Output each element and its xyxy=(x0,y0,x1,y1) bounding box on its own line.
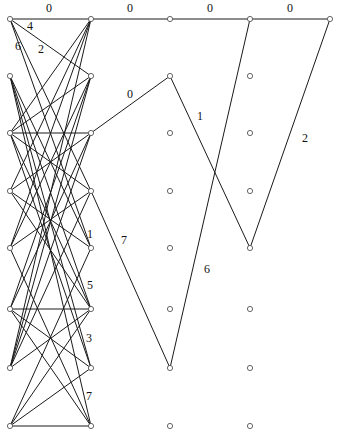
node-L1 xyxy=(7,73,12,78)
node-R0 xyxy=(88,16,93,21)
edge-L0-R1 xyxy=(10,19,91,76)
edge-weight-label: 0 xyxy=(207,1,213,15)
node-L0 xyxy=(7,16,12,21)
graph-canvas: 0000462012176537 xyxy=(0,0,338,437)
node-L4 xyxy=(7,245,12,250)
edge-R3-C6 xyxy=(91,191,170,368)
edge-weight-label: 0 xyxy=(46,1,52,15)
edge-weight-label: 3 xyxy=(86,331,92,345)
node-D1 xyxy=(247,73,252,78)
edge-L6-R3 xyxy=(10,191,91,368)
node-D6 xyxy=(247,365,252,370)
edge-weight-label: 0 xyxy=(127,1,133,15)
node-C5 xyxy=(167,306,172,311)
node-R4 xyxy=(88,245,93,250)
edge-weight-label: 4 xyxy=(27,19,33,33)
node-C1 xyxy=(167,73,172,78)
edge-weight-label: 0 xyxy=(287,1,293,15)
node-D2 xyxy=(247,130,252,135)
node-R5 xyxy=(88,306,93,311)
node-C6 xyxy=(167,365,172,370)
edge-weight-label: 5 xyxy=(87,278,93,292)
edge-weight-label: 7 xyxy=(121,233,127,247)
edge-L7-R6 xyxy=(10,368,91,426)
edge-L6-R0 xyxy=(10,19,91,368)
edge-weight-label: 6 xyxy=(204,262,210,276)
edge-L2-R0 xyxy=(10,19,91,133)
nodes-layer xyxy=(7,16,332,428)
edge-weight-label: 2 xyxy=(302,131,308,145)
edge-D0-C6 xyxy=(170,19,250,368)
edge-weight-label: 2 xyxy=(38,42,44,56)
edge-weight-label: 6 xyxy=(15,39,21,53)
node-L3 xyxy=(7,188,12,193)
edge-weight-label: 1 xyxy=(197,109,203,123)
node-C4 xyxy=(167,245,172,250)
node-R7 xyxy=(88,423,93,428)
node-C3 xyxy=(167,188,172,193)
node-L7 xyxy=(7,423,12,428)
node-E0 xyxy=(327,16,332,21)
edge-weight-label: 0 xyxy=(127,87,133,101)
node-R6 xyxy=(88,365,93,370)
node-D3 xyxy=(247,188,252,193)
node-D7 xyxy=(247,423,252,428)
edge-D4-E0 xyxy=(250,19,330,248)
graph-diagram: 0000462012176537 xyxy=(0,0,338,437)
node-R3 xyxy=(88,188,93,193)
edge-R2-C1 xyxy=(91,76,170,133)
node-C2 xyxy=(167,130,172,135)
node-D0 xyxy=(247,16,252,21)
node-L5 xyxy=(7,306,12,311)
node-C7 xyxy=(167,423,172,428)
node-R1 xyxy=(88,73,93,78)
node-D5 xyxy=(247,306,252,311)
node-L6 xyxy=(7,365,12,370)
node-D4 xyxy=(247,245,252,250)
edge-weight-label: 1 xyxy=(87,227,93,241)
node-L2 xyxy=(7,130,12,135)
edge-C1-D4 xyxy=(170,76,250,248)
node-R2 xyxy=(88,130,93,135)
node-C0 xyxy=(167,16,172,21)
edge-weight-label: 7 xyxy=(86,389,92,403)
